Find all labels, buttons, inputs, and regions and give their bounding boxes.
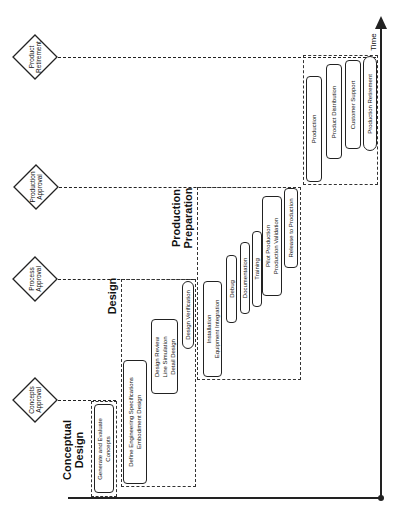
milestone-label: Retirement: [35, 41, 42, 73]
baseline-axis: [68, 497, 382, 499]
task-generate-evaluate-concepts: Generate and EvaluateConcepts: [94, 404, 114, 493]
time-axis: [380, 26, 382, 498]
phase-title-conceptual-design: ConceptualDesign: [61, 420, 85, 480]
milestone-production-approval: ProductionApproval: [13, 164, 59, 210]
milestone-label: Product: [28, 46, 35, 68]
phase-title-design: Design: [106, 278, 118, 315]
task-product-distribution: Product Distribution: [326, 64, 342, 159]
milestone-label: Approval: [35, 387, 42, 413]
task-pilot-production: Pilot ProductionProduction Validation: [262, 196, 282, 296]
time-axis-label: Time: [369, 33, 378, 50]
time-arrow-icon: [374, 16, 388, 30]
milestone-label: Process: [28, 267, 35, 290]
milestone-label: Approval: [36, 174, 43, 200]
milestone-label: Production: [29, 171, 36, 202]
milestone-process-approval: ProcessApproval: [12, 256, 58, 302]
milestone-label: Approval: [35, 266, 42, 292]
axis-origin-dot: [377, 494, 385, 502]
task-release-to-production: Release to Production: [284, 188, 298, 268]
milestone-product-retirement: ProductRetirement: [12, 34, 58, 80]
milestone-label: Concepts: [28, 386, 35, 413]
task-installation: InstallationEquipment Integration: [203, 281, 222, 377]
task-design-verification: Design Verification: [182, 281, 194, 349]
task-documentation: Documentation: [240, 242, 250, 314]
task-customer-support: Customer Support: [345, 60, 361, 149]
phase-title-production-preparation: ProductionPreparation: [170, 187, 194, 248]
milestone-concepts-approval: ConceptsApproval: [12, 377, 58, 423]
task-production: Production: [306, 76, 322, 182]
task-detail-design: Design ReviewLine SimulationDetail Desig…: [151, 319, 178, 394]
task-define-engineering-specs: Define Engineering SpecificationsEmbodim…: [123, 360, 147, 484]
task-training: Training: [252, 231, 262, 307]
task-production-retirement: Production Retirement: [363, 56, 377, 151]
task-debug: Debug: [226, 255, 237, 323]
